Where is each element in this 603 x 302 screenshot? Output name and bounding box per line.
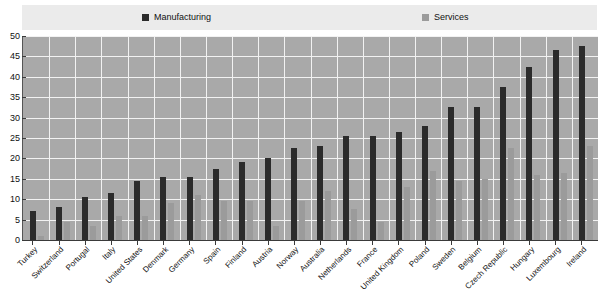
bar-manufacturing	[291, 148, 297, 240]
bar-manufacturing	[82, 197, 88, 240]
y-axis-tick-label: 20	[4, 154, 20, 163]
x-axis-tick-label: France	[355, 245, 379, 269]
bar-services	[508, 148, 514, 240]
bar-group	[520, 36, 546, 240]
y-axis-tick-label: 5	[4, 216, 20, 225]
bar-group	[311, 36, 337, 240]
bar-services	[142, 216, 148, 240]
bar-manufacturing	[108, 193, 114, 240]
bar-group	[493, 36, 519, 240]
bar-manufacturing	[213, 169, 219, 240]
bar-group	[389, 36, 415, 240]
y-axis-tick	[22, 199, 26, 200]
bar-chart: Manufacturing Services 50454035302520151…	[0, 0, 603, 302]
bar-services	[351, 209, 357, 240]
bar-group	[49, 36, 75, 240]
bar-services	[116, 216, 122, 240]
legend-entry-services: Services	[422, 5, 469, 30]
bar-services	[430, 171, 436, 240]
bar-services	[482, 179, 488, 240]
bar-services	[378, 222, 384, 240]
bar-manufacturing	[56, 207, 62, 240]
bar-group	[258, 36, 284, 240]
y-axis-tick-label: 35	[4, 93, 20, 102]
x-axis-tick-label: Poland	[407, 245, 431, 269]
bar-manufacturing	[448, 107, 454, 240]
bar-services	[299, 201, 305, 240]
bar-services	[587, 146, 593, 240]
bar-manufacturing	[30, 211, 36, 240]
bar-group	[180, 36, 206, 240]
y-axis-tick	[22, 118, 26, 119]
y-axis: 50454035302520151050	[0, 36, 20, 240]
bar-services	[325, 191, 331, 240]
bar-services	[221, 201, 227, 240]
plot-area	[22, 36, 598, 240]
bar-group	[546, 36, 572, 240]
bar-manufacturing	[579, 46, 585, 240]
bar-manufacturing	[134, 181, 140, 240]
bar-group	[572, 36, 598, 240]
bar-manufacturing	[265, 158, 271, 240]
legend-label-manufacturing: Manufacturing	[154, 13, 211, 22]
bar-services	[168, 203, 174, 240]
services-swatch	[422, 14, 429, 21]
bar-manufacturing	[553, 50, 559, 240]
y-axis-tick-label: 10	[4, 195, 20, 204]
y-axis-tick	[22, 56, 26, 57]
x-axis-tick-label: Denmark	[141, 245, 170, 274]
legend-entry-manufacturing: Manufacturing	[142, 5, 211, 30]
bar-services	[404, 187, 410, 240]
bar-manufacturing	[343, 136, 349, 240]
bar-services	[195, 195, 201, 240]
bar-group	[23, 36, 49, 240]
chart-legend: Manufacturing Services	[22, 5, 597, 30]
bar-group	[128, 36, 154, 240]
bar-group	[75, 36, 101, 240]
bar-services	[247, 201, 253, 240]
bar-group	[441, 36, 467, 240]
bar-group	[415, 36, 441, 240]
bar-manufacturing	[160, 177, 166, 240]
bar-manufacturing	[370, 136, 376, 240]
y-axis-tick	[22, 179, 26, 180]
bar-group	[232, 36, 258, 240]
bar-services	[273, 226, 279, 240]
y-axis-tick	[22, 240, 26, 241]
y-axis-tick-label: 30	[4, 114, 20, 123]
bar-group	[337, 36, 363, 240]
x-axis-tick-label: Portugal	[64, 245, 91, 272]
x-axis-tick-label: Sweden	[431, 245, 458, 272]
y-axis-tick-label: 45	[4, 52, 20, 61]
bar-services	[64, 222, 70, 240]
x-axis-tick-label: Turkey	[16, 245, 39, 268]
bar-services	[456, 181, 462, 240]
x-axis-tick-label: Italy	[101, 245, 118, 262]
y-axis-tick	[22, 138, 26, 139]
y-axis-tick-label: 40	[4, 73, 20, 82]
y-axis-tick-label: 25	[4, 134, 20, 143]
bar-group	[206, 36, 232, 240]
bar-manufacturing	[187, 177, 193, 240]
bar-manufacturing	[526, 67, 532, 240]
x-axis-tick-label: Ireland	[565, 245, 589, 269]
x-axis-tick-label: Finland	[224, 245, 249, 270]
bar-group	[154, 36, 180, 240]
x-axis-tick-label: Spain	[201, 245, 222, 266]
bar-group	[101, 36, 127, 240]
x-axis-labels: TurkeySwitzerlandPortugalItalyUnited Sta…	[0, 241, 603, 302]
bar-manufacturing	[474, 107, 480, 240]
bar-group	[284, 36, 310, 240]
x-axis-tick-label: Germany	[167, 245, 197, 275]
x-axis-tick-label: Austria	[251, 245, 275, 269]
y-axis-tick	[22, 97, 26, 98]
y-axis-tick	[22, 77, 26, 78]
bar-services	[534, 175, 540, 240]
bar-services	[90, 226, 96, 240]
manufacturing-swatch	[142, 14, 149, 21]
bar-services	[561, 173, 567, 240]
legend-label-services: Services	[434, 13, 469, 22]
y-axis-tick	[22, 158, 26, 159]
bar-manufacturing	[239, 162, 245, 240]
bar-manufacturing	[317, 146, 323, 240]
